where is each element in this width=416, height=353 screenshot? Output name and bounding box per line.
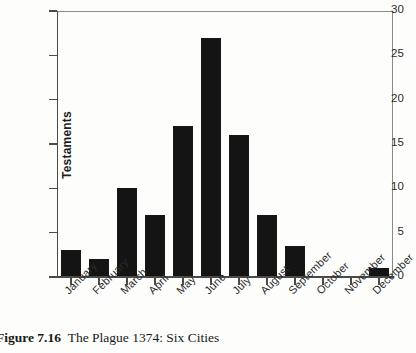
- bar-may: [173, 126, 193, 277]
- bar-july: [229, 135, 249, 277]
- y-axis-line: [57, 11, 59, 277]
- bars-layer: [57, 11, 393, 277]
- figure-caption: Figure 7.16 The Plague 1374: Six Cities: [0, 330, 219, 346]
- figure-caption-label: Figure 7.16: [0, 330, 61, 345]
- figure-caption-text: The Plague 1374: Six Cities: [68, 330, 220, 345]
- bar-june: [201, 38, 221, 277]
- bar-april: [145, 215, 165, 277]
- bar-august: [257, 215, 277, 277]
